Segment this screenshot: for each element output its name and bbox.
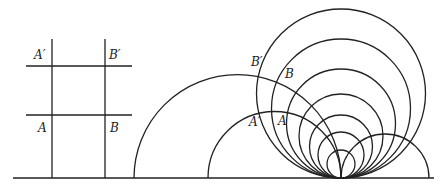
label-b-right: B bbox=[284, 67, 294, 81]
diagram: A′ B′ A B B′ B A′ A bbox=[0, 0, 448, 186]
diagram-canvas: A′ B′ A B B′ B A′ A bbox=[0, 0, 448, 186]
label-b-prime-left: B′ bbox=[108, 48, 121, 62]
label-a-right: A bbox=[277, 114, 287, 128]
tangent-circle-3 bbox=[287, 69, 396, 178]
label-a-left: A bbox=[37, 121, 47, 135]
semicircle-large bbox=[134, 75, 341, 178]
label-a-prime-right: A′ bbox=[248, 115, 261, 129]
label-a-prime-left: A′ bbox=[33, 48, 46, 62]
label-b-left: B bbox=[109, 121, 119, 135]
label-b-prime-right: B′ bbox=[250, 55, 263, 69]
tangent-circle-2 bbox=[272, 39, 411, 178]
